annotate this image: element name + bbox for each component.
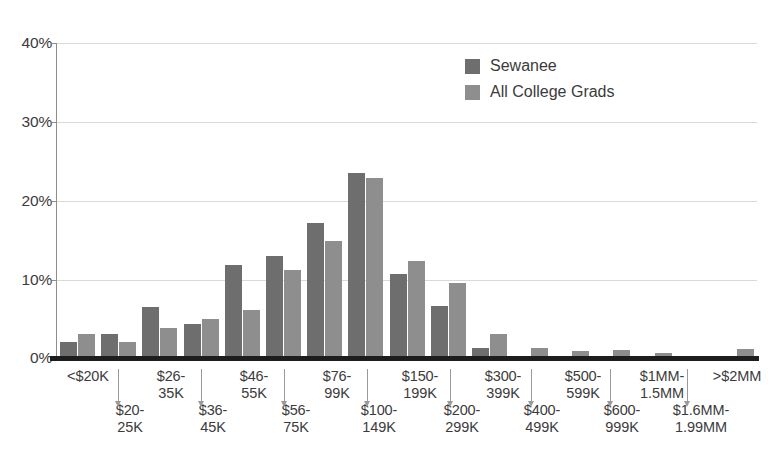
arrow-shaft	[687, 369, 688, 403]
bar-all-college-grads	[366, 178, 383, 358]
label-connector-arrow-4	[446, 369, 455, 409]
x-label-bottom-4-line1: $200-	[420, 402, 504, 419]
x-label-bottom-5: $400- 499K	[500, 402, 584, 436]
x-label-bottom-6-line1: $600-	[580, 402, 664, 419]
y-tick-label-10: 10%	[6, 271, 52, 289]
arrow-head-icon	[115, 401, 121, 407]
bar-all-college-grads	[284, 270, 301, 358]
arrow-head-icon	[607, 401, 613, 407]
bar-all-college-grads	[78, 334, 95, 358]
x-label-bottom-0-line1: $20-	[88, 402, 172, 419]
bar-group	[225, 43, 260, 358]
x-label-bottom-7: $1.6MM- 1.99MM	[655, 402, 747, 436]
x-label-bottom-6-line2: 999K	[580, 419, 664, 436]
bar-sewanee	[266, 256, 283, 358]
bar-group	[431, 43, 466, 358]
y-tick-label-40: 40%	[6, 34, 52, 52]
x-label-bottom-5-line2: 499K	[500, 419, 584, 436]
bar-group	[348, 43, 383, 358]
bar-sewanee	[431, 306, 448, 358]
x-label-bottom-4: $200- 299K	[420, 402, 504, 436]
bar-sewanee	[184, 324, 201, 358]
bar-all-college-grads	[325, 241, 342, 358]
x-label-top-8-line1: >$2MM	[696, 368, 778, 385]
arrow-head-icon	[281, 401, 287, 407]
legend-swatch-sewanee	[465, 59, 480, 74]
bar-all-college-grads	[490, 334, 507, 358]
label-connector-arrow-7	[683, 369, 692, 409]
bar-sewanee	[348, 173, 365, 358]
x-label-bottom-7-line1: $1.6MM-	[655, 402, 747, 419]
arrow-shaft	[610, 369, 611, 403]
y-tick-label-30: 30%	[6, 113, 52, 131]
x-label-bottom-3-line1: $100-	[337, 402, 421, 419]
legend-item-all-college-grads: All College Grads	[465, 79, 615, 105]
arrow-shaft	[284, 369, 285, 403]
x-axis-labels: <$20K $26- 35K $46- 55K $76- 99K $150- 1…	[0, 363, 779, 456]
bar-group	[307, 43, 342, 358]
arrow-head-icon	[447, 401, 453, 407]
label-connector-arrow-5	[527, 369, 536, 409]
x-label-bottom-0-line2: 25K	[88, 419, 172, 436]
legend-label-sewanee: Sewanee	[490, 57, 557, 75]
x-label-bottom-6: $600- 999K	[580, 402, 664, 436]
bar-sewanee	[307, 223, 324, 358]
x-label-bottom-0: $20- 25K	[88, 402, 172, 436]
bar-group	[390, 43, 425, 358]
plot-area	[57, 43, 757, 358]
y-tick-label-20: 20%	[6, 192, 52, 210]
label-connector-arrow-1	[197, 369, 206, 409]
bar-sewanee	[225, 265, 242, 358]
bar-sewanee	[390, 274, 407, 358]
x-label-bottom-2: $56- 75K	[254, 402, 338, 436]
x-label-bottom-5-line1: $400-	[500, 402, 584, 419]
bar-group	[101, 43, 136, 358]
x-label-bottom-1-line1: $36-	[171, 402, 255, 419]
bar-group	[60, 43, 95, 358]
label-connector-arrow-2	[280, 369, 289, 409]
bar-group	[184, 43, 219, 358]
bar-group	[142, 43, 177, 358]
x-label-bottom-1-line2: 45K	[171, 419, 255, 436]
legend-swatch-all-college-grads	[465, 85, 480, 100]
bar-all-college-grads	[202, 319, 219, 358]
bar-group	[266, 43, 301, 358]
arrow-shaft	[531, 369, 532, 403]
arrow-shaft	[201, 369, 202, 403]
bar-sewanee	[101, 334, 118, 358]
x-label-bottom-7-line2: 1.99MM	[655, 419, 747, 436]
x-label-bottom-1: $36- 45K	[171, 402, 255, 436]
arrow-shaft	[118, 369, 119, 403]
x-label-bottom-2-line1: $56-	[254, 402, 338, 419]
bar-all-college-grads	[449, 283, 466, 358]
income-distribution-chart: 40% 30% 20% 10% 0% Sewanee All College G…	[0, 0, 779, 456]
bar-all-college-grads	[160, 328, 177, 358]
bar-all-college-grads	[243, 310, 260, 358]
x-label-bottom-2-line2: 75K	[254, 419, 338, 436]
legend-label-all-college-grads: All College Grads	[490, 83, 615, 101]
bar-group	[719, 43, 754, 358]
x-label-bottom-4-line2: 299K	[420, 419, 504, 436]
arrow-shaft	[450, 369, 451, 403]
bar-group	[637, 43, 672, 358]
label-connector-arrow-6	[606, 369, 615, 409]
x-label-bottom-3-line2: 149K	[337, 419, 421, 436]
arrow-head-icon	[684, 401, 690, 407]
bar-sewanee	[142, 307, 159, 358]
arrow-shaft	[367, 369, 368, 403]
bar-group	[678, 43, 713, 358]
label-connector-arrow-3	[363, 369, 372, 409]
x-label-bottom-3: $100- 149K	[337, 402, 421, 436]
arrow-head-icon	[364, 401, 370, 407]
arrow-head-icon	[528, 401, 534, 407]
chart-legend: Sewanee All College Grads	[465, 53, 615, 105]
x-axis-baseline	[50, 356, 759, 361]
x-label-top-8: >$2MM	[696, 368, 778, 385]
arrow-head-icon	[198, 401, 204, 407]
bar-all-college-grads	[408, 261, 425, 358]
legend-item-sewanee: Sewanee	[465, 53, 615, 79]
label-connector-arrow-0	[114, 369, 123, 409]
